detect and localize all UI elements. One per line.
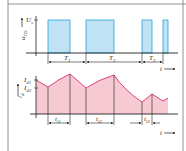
- period-label-t3: T3: [149, 54, 156, 63]
- gate-voltage-chart: uGS Us T1 T2 T3 t: [19, 16, 178, 73]
- level-label-id2: Id2: [23, 84, 32, 93]
- interval-label-ti1: ti1: [55, 115, 61, 124]
- bottom-ylabel: id: [16, 93, 25, 98]
- pulse-4: [163, 20, 168, 53]
- current-area: [36, 74, 168, 114]
- interval-label-ti2: ti2: [96, 115, 102, 124]
- bottom-xlabel: t: [160, 129, 163, 137]
- pwm-current-diagram: uGS Us T1 T2 T3 t: [0, 0, 186, 151]
- level-label-us: Us: [26, 16, 33, 25]
- voltage-pulses: [48, 20, 168, 53]
- interval-label-ti3: ti3: [144, 115, 150, 124]
- top-ylabel: uGS: [19, 30, 28, 40]
- period-label-t1: T1: [64, 54, 70, 63]
- drain-current-chart: id Id1 Id2 ti1 ti2 ti3 t: [16, 74, 178, 137]
- pulse-1: [48, 20, 70, 53]
- period-label-t2: T2: [109, 54, 116, 63]
- pulse-2: [86, 20, 114, 53]
- pulse-3: [142, 20, 152, 53]
- top-xlabel: t: [160, 65, 163, 73]
